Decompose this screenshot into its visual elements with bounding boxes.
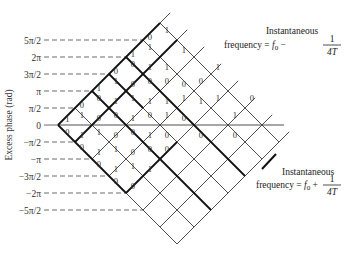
bit-label: 0	[165, 144, 169, 154]
bit-label: 1	[131, 49, 135, 59]
bit-label: 1	[114, 76, 118, 86]
bit-label: 1	[80, 110, 84, 120]
annotation-upper-frequency: Instantaneous frequency = f0 − 1 4T	[224, 26, 341, 57]
bit-label: 0	[114, 110, 118, 120]
bit-label: 1	[131, 93, 135, 103]
bit-label: 1	[97, 127, 101, 137]
bit-label: 1	[80, 130, 84, 140]
bit-label: 1	[131, 161, 135, 171]
bit-label: 0	[165, 130, 169, 140]
bit-label: 0	[80, 142, 84, 152]
bit-label: 0	[148, 32, 152, 42]
y-tick-label: −π/2	[23, 138, 41, 148]
y-tick-label: −3π/2	[19, 172, 42, 182]
y-tick-label: 5π/2	[24, 36, 41, 46]
y-tick-label: 2π	[31, 53, 41, 63]
bit-label: 0	[97, 93, 101, 103]
bit-label: 1	[131, 113, 135, 123]
annotation-upper-fraction-numerator: 1	[330, 34, 335, 44]
bit-label: 1	[114, 164, 118, 174]
bit-label: 0	[199, 130, 203, 140]
bit-label: 0	[131, 147, 135, 157]
bit-label: 1	[148, 62, 152, 72]
y-axis-title: Excess phase (rad)	[4, 89, 15, 160]
bit-label: 1	[165, 62, 169, 72]
bit-label: 0	[182, 113, 186, 123]
bit-label: 0	[114, 130, 118, 140]
bit-label: 0	[165, 76, 169, 86]
bit-label: 0	[97, 113, 101, 123]
y-tick-label: π	[36, 87, 41, 97]
y-tick-label: −5π/2	[19, 206, 42, 216]
bit-label: 0	[97, 159, 101, 169]
bit-label: 1	[182, 93, 186, 103]
annotation-upper-fraction-denominator: 4T	[327, 47, 338, 57]
y-tick-label: 3π/2	[24, 70, 41, 80]
bit-label: 1	[165, 110, 169, 120]
annotation-upper-line2: frequency = f0 −	[224, 40, 286, 52]
bit-label: 0	[250, 93, 254, 103]
bit-label: 1	[148, 130, 152, 140]
bit-label: 0	[65, 127, 69, 137]
bit-label: 1	[216, 62, 220, 72]
annotation-lower-fraction-denominator: 4T	[327, 187, 338, 197]
bit-label: 1	[165, 96, 169, 106]
bit-label: 0	[148, 110, 152, 120]
bit-label: 0	[131, 127, 135, 137]
y-tick-label: π/2	[29, 104, 41, 114]
bit-label: 1	[97, 83, 101, 93]
bit-label: 0	[114, 176, 118, 186]
annotation-lower-line1: Instantaneous	[282, 167, 335, 177]
bit-label: 0	[114, 66, 118, 76]
y-axis-ticks: 5π/22π3π/2ππ/20−π/2−π−3π/2−2π−5π/2	[19, 36, 42, 216]
bit-label: 1	[216, 93, 220, 103]
annotation-lower-frequency: Instantaneous frequency = f0 + 1 4T	[256, 154, 341, 197]
bit-label: 0	[233, 130, 237, 140]
y-tick-label: −π	[31, 155, 41, 165]
bit-label: 1	[233, 110, 237, 120]
bit-label: 0	[148, 76, 152, 86]
bit-label: 1	[165, 25, 169, 35]
bit-label: 1	[148, 42, 152, 52]
bit-label: 1	[148, 96, 152, 106]
bit-label: 1	[65, 114, 69, 124]
bit-label: 0	[80, 100, 84, 110]
bit-label: 0	[131, 79, 135, 89]
bit-label: 1	[148, 164, 152, 174]
annotation-lower-line2: frequency = f0 +	[256, 180, 318, 192]
bit-label: 1	[182, 45, 186, 55]
annotation-upper-line1: Instantaneous	[266, 26, 319, 36]
y-tick-label: −2π	[26, 189, 41, 199]
annotation-lower-fraction-numerator: 1	[330, 174, 335, 184]
bit-label: 0	[148, 144, 152, 154]
bit-label: 1	[97, 147, 101, 157]
bit-label: 0	[199, 76, 203, 86]
bit-label: 0	[131, 59, 135, 69]
bit-label: 1	[199, 96, 203, 106]
annotation-lower-bracket	[262, 154, 276, 169]
bit-label: 0	[182, 79, 186, 89]
msk-phase-trellis-diagram: Excess phase (rad) 5π/22π3π/2ππ/20−π/2−π…	[0, 0, 345, 254]
y-tick-label: 0	[36, 121, 41, 131]
bit-label: 1	[114, 144, 118, 154]
bit-label: 1	[114, 96, 118, 106]
bit-label: 0	[131, 181, 135, 191]
